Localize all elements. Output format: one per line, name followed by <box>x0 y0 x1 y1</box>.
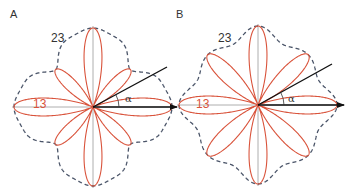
panel-b: B α 23 13 <box>176 8 344 186</box>
polar-diagram-figure: A α 23 13 B α 23 13 <box>0 0 349 195</box>
panel-a-label-23: 23 <box>51 31 65 45</box>
panel-b-alpha-label: α <box>288 93 295 104</box>
panel-a: A α 23 13 <box>10 8 177 188</box>
panel-a-label: A <box>10 8 18 20</box>
panel-a-label-13: 13 <box>33 97 47 111</box>
panel-b-alpha-line <box>258 64 332 105</box>
panel-b-label: B <box>176 8 183 20</box>
panel-b-label-13: 13 <box>196 97 210 111</box>
panel-b-label-23: 23 <box>218 31 232 45</box>
panel-a-alpha-label: α <box>125 93 132 104</box>
